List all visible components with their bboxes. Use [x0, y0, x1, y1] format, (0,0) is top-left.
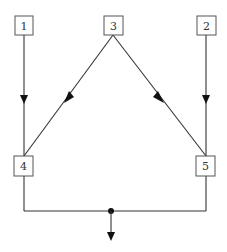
- output-arrow-icon: [107, 232, 115, 241]
- node-3: 3: [104, 16, 123, 35]
- node-2-label: 2: [203, 20, 210, 33]
- arrow-diagonal-right-icon: [153, 91, 164, 103]
- node-1-label: 1: [21, 20, 28, 33]
- node-5: 5: [196, 156, 215, 176]
- arrow-down-icon: [202, 95, 210, 104]
- edge-2-to-5: [202, 35, 210, 156]
- edge-1-to-4: [20, 35, 28, 156]
- arrow-down-icon: [20, 95, 28, 104]
- node-1: 1: [15, 16, 33, 35]
- node-5-label: 5: [202, 160, 209, 173]
- node-4-label: 4: [20, 160, 27, 173]
- node-2: 2: [197, 16, 216, 35]
- merge-connector: [24, 176, 206, 241]
- flow-diagram: 1 3 2 4 5: [0, 0, 227, 252]
- node-3-label: 3: [110, 20, 117, 33]
- edge-3-to-5: [113, 35, 206, 156]
- arrow-diagonal-left-icon: [64, 91, 74, 103]
- node-4: 4: [14, 156, 33, 176]
- edge-3-to-4: [24, 35, 113, 156]
